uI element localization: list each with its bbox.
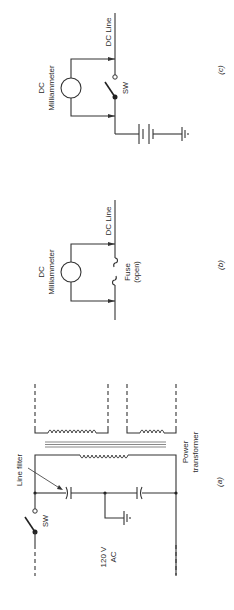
panel-a: Line filter SW 120 V AC Power transforme… [15, 384, 224, 576]
secondary-winding-icon [140, 430, 164, 433]
meter-label-dc: DC [37, 82, 46, 94]
arrow-icon [108, 57, 115, 61]
switch-label: SW [41, 514, 50, 527]
line-filter-capacitor-icon [66, 487, 71, 499]
dc-line-label: DC Line [104, 17, 113, 46]
line-filter-label: Line filter [15, 453, 24, 486]
ground-icon [124, 511, 130, 525]
panel-caption-b: (b) [216, 260, 225, 270]
dc-line-label: DC Line [104, 206, 113, 235]
source-ac-label: AC [109, 551, 118, 562]
milliammeter-icon [61, 78, 81, 98]
panel-caption-c: (c) [216, 65, 225, 75]
circuit-figure: DC Milliammeter DC Line SW (c) DC Millia… [0, 0, 234, 610]
secondary-winding-icon [48, 430, 96, 433]
ground-icon [182, 127, 188, 141]
fuse-label: Fuse [123, 263, 132, 281]
fuse-open-label: (open) [132, 261, 141, 283]
switch-icon [25, 509, 38, 535]
arrow-icon [108, 242, 115, 246]
milliammeter-icon [61, 262, 81, 282]
panel-caption-a: (a) [215, 477, 224, 487]
transformer-label-transformer: transformer [191, 431, 200, 472]
source-voltage-label: 120 V [99, 546, 108, 568]
switch-label: SW [121, 81, 130, 94]
primary-winding-icon [80, 455, 128, 458]
meter-label-milliammeter: Milliammeter [47, 65, 56, 111]
panel-c: DC Milliammeter DC Line SW (c) [37, 13, 225, 144]
meter-label-milliammeter: Milliammeter [47, 249, 56, 295]
pointer-arrow-icon [28, 468, 61, 489]
arrow-icon [108, 299, 115, 303]
capacitor-icon [137, 487, 142, 499]
transformer-label-power: Power [181, 440, 190, 463]
switch-icon [105, 75, 118, 100]
arrow-icon [108, 114, 115, 118]
open-fuse-icon [113, 258, 118, 285]
battery-icon [139, 124, 153, 144]
transformer-core-icon [45, 442, 166, 447]
panel-b: DC Milliammeter DC Line Fuse (open) (b) [37, 200, 225, 320]
meter-label-dc: DC [37, 266, 46, 278]
